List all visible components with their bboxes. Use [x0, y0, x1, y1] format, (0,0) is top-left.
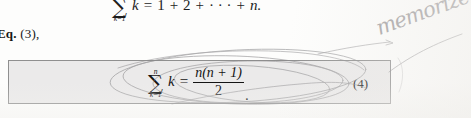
sum-lower-limit-top: k=1 [112, 15, 127, 23]
term-one: 1 [157, 0, 165, 13]
annotation-leader-line [318, 42, 390, 54]
summation-operator-boxed: n ∑ k=1 [148, 68, 163, 98]
fraction-denominator: 2 [193, 83, 244, 99]
handwritten-annotation-memorize: memorize [373, 0, 471, 40]
term-two: 2 [183, 0, 191, 13]
fraction-numerator: n(n + 1) [193, 66, 244, 82]
plus-sign-third: + [237, 0, 245, 13]
equation-reference-prefix: Eq. [0, 26, 17, 41]
annotation-leader-tick [386, 40, 393, 45]
scanned-page: n ∑ k=1 k=1+2+· · ·+n. Eq. (3), n ∑ k=1 … [0, 0, 471, 118]
sum-lower-limit-boxed: k=1 [148, 91, 163, 99]
summation-operator-top: n ∑ k=1 [112, 0, 127, 22]
equation-number-4: (4) [353, 76, 368, 92]
term-n: n. [250, 0, 261, 13]
annotation-underline-swoosh [389, 34, 462, 72]
equation-3-display: n ∑ k=1 k=1+2+· · ·+n. [112, 0, 261, 21]
equals-sign-top: = [144, 0, 152, 13]
sentence-period: . [244, 87, 249, 104]
plus-sign-second: + [196, 0, 204, 13]
summand-boxed: k [168, 73, 175, 89]
equals-sign-boxed: = [180, 73, 188, 89]
pencil-edge-stroke [398, 58, 403, 92]
equation-4-display: n ∑ k=1 k= n(n + 1) 2 . [148, 66, 249, 98]
equation-reference-number: (3), [20, 26, 39, 41]
equation-reference-label: Eq. (3), [0, 26, 39, 42]
summand-top: k [132, 0, 139, 13]
fraction: n(n + 1) 2 [193, 66, 244, 98]
ellipsis-symbol: · · · [209, 0, 232, 13]
plus-sign-first: + [170, 0, 178, 13]
